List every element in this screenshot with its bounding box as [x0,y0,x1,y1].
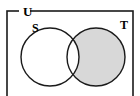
set-s-label: S [32,21,39,35]
set-t-label: T [120,18,128,32]
universal-set-label: U [23,4,33,19]
shaded-region-t-minus-s [0,0,140,96]
venn-diagram-figure: U S T [0,0,140,96]
venn-diagram-canvas: U S T [0,0,140,96]
